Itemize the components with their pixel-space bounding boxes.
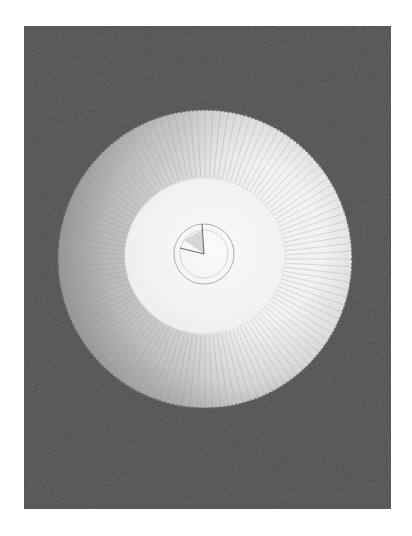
hat-crown [125,178,285,334]
conical-hat-illustration [24,26,391,509]
hat-photo [24,26,391,509]
